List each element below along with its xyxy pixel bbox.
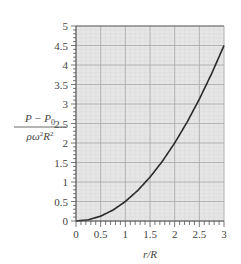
- x-tick-label: 3: [221, 228, 227, 240]
- svg-text:ρω2R2: ρω2R2: [26, 130, 54, 142]
- y-tick-label: 3: [63, 98, 69, 110]
- y-axis-label: P − P0 ρω2R2: [14, 112, 66, 142]
- y-tick-label: 5: [63, 20, 69, 32]
- y-tick-label: 3.5: [54, 79, 68, 91]
- x-tick-label: 1.5: [143, 228, 157, 240]
- y-tick-label: 0: [63, 215, 69, 227]
- y-tick-labels: 00.511.522.533.544.55: [54, 20, 68, 227]
- chart: 00.511.522.533.544.55 00.511.522.53 r/R …: [0, 0, 241, 264]
- x-tick-label: 2.5: [192, 228, 206, 240]
- svg-text:P − P0: P − P0: [24, 112, 55, 127]
- x-tick-label: 0.5: [94, 228, 108, 240]
- y-label-numerator-sub: 0: [51, 118, 55, 127]
- y-tick-label: 4.5: [54, 40, 68, 52]
- y-tick-label: 1: [63, 176, 69, 188]
- x-tick-labels: 00.511.522.53: [73, 228, 227, 240]
- y-tick-label: 1.5: [54, 157, 68, 169]
- y-label-numerator: P − P: [24, 112, 51, 124]
- x-tick-label: 2: [172, 228, 178, 240]
- x-tick-label: 0: [73, 228, 79, 240]
- x-tick-label: 1: [123, 228, 129, 240]
- x-axis-label: r/R: [143, 248, 157, 260]
- y-tick-label: 2.5: [54, 118, 68, 130]
- y-tick-label: 0.5: [54, 196, 68, 208]
- y-tick-label: 2: [63, 137, 69, 149]
- y-tick-label: 4: [63, 59, 69, 71]
